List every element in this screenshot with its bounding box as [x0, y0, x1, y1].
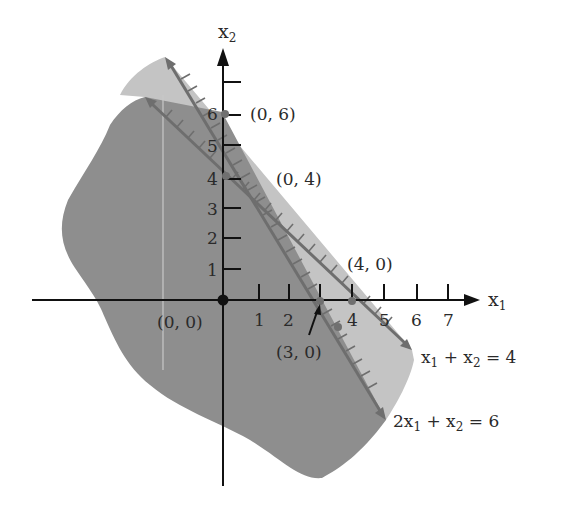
origin-point: [218, 295, 229, 306]
point-label-0-6: (0, 6): [250, 106, 296, 123]
point-label-3-0: (3, 0): [276, 344, 322, 361]
x-axis-arrow-icon: [464, 294, 480, 306]
y-tick-1: 1: [207, 262, 218, 279]
intercept-marker-3-0: [316, 297, 324, 305]
intercept-marker-0-6: [221, 110, 229, 118]
equation-label-line1: x1 + x2 = 4: [421, 349, 516, 369]
y-axis-label-sub: 2: [229, 31, 237, 45]
x-tick-4: 4: [347, 312, 358, 329]
constraint-graph: [0, 0, 588, 512]
eq1-term-a-sub: 1: [431, 356, 439, 370]
y-tick-3: 3: [207, 201, 218, 218]
y-axis-label-var: x: [218, 20, 229, 42]
x-axis-label-sub: 1: [499, 299, 507, 313]
y-tick-5: 5: [207, 138, 218, 155]
x-tick-5: 5: [379, 312, 390, 329]
x-tick-7: 7: [443, 312, 454, 329]
eq2-term-b: x: [446, 411, 456, 431]
y-axis-label: x2: [218, 22, 236, 44]
point-label-0-4: (0, 4): [276, 171, 322, 188]
eq2-term-a: 2x: [393, 411, 413, 431]
point-label-4-0: (4, 0): [347, 256, 393, 273]
x-tick-1: 1: [254, 312, 265, 329]
equation-label-line2: 2x1 + x2 = 6: [393, 413, 499, 433]
eq2-term-a-sub: 1: [413, 420, 421, 434]
y-tick-2: 2: [207, 230, 218, 247]
eq1-op: +: [444, 347, 458, 367]
intercept-marker-4-0: [348, 297, 356, 305]
marker-dot: [334, 323, 342, 331]
eq2-term-b-sub: 2: [456, 420, 464, 434]
point-label-0-0: (0, 0): [157, 314, 203, 331]
eq1-term-b: x: [463, 347, 473, 367]
x-tick-2: 2: [283, 312, 294, 329]
eq1-term-b-sub: 2: [473, 356, 481, 370]
eq1-rhs: = 4: [486, 347, 516, 367]
x-axis-label: x1: [488, 290, 506, 312]
eq2-op: +: [426, 411, 440, 431]
intercept-marker-0-4: [222, 172, 230, 180]
y-tick-6: 6: [207, 106, 218, 123]
eq2-rhs: = 6: [469, 411, 499, 431]
x-axis-label-var: x: [488, 288, 499, 310]
y-axis-arrow-icon: [217, 48, 229, 66]
y-tick-4: 4: [207, 171, 218, 188]
eq1-term-a: x: [421, 347, 431, 367]
x-tick-6: 6: [411, 312, 422, 329]
